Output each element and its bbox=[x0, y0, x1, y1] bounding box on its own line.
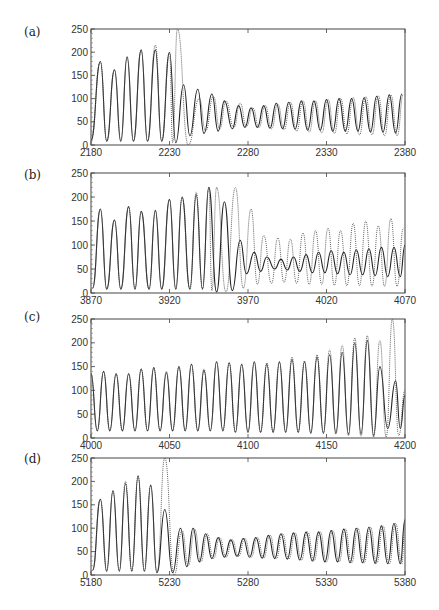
y-tick-label: 100 bbox=[71, 240, 88, 251]
dotted-series-line bbox=[93, 458, 405, 575]
y-tick-label: 200 bbox=[71, 337, 88, 348]
panel-d: 05010015020025051805230528053305380 bbox=[71, 453, 416, 589]
y-tick-label: 100 bbox=[71, 93, 88, 104]
y-tick-label: 150 bbox=[71, 361, 88, 372]
solid-series-line bbox=[93, 476, 405, 573]
x-tick-label: 3970 bbox=[237, 295, 260, 306]
panel-a: 05010015020025021802230228023302380 bbox=[71, 24, 416, 159]
panel-c: 05010015020025040004050410041504200 bbox=[71, 314, 416, 452]
x-tick-label: 4150 bbox=[315, 440, 338, 451]
x-tick-label: 2280 bbox=[237, 147, 260, 158]
y-tick-label: 200 bbox=[71, 192, 88, 203]
solid-series-line bbox=[93, 187, 405, 292]
y-tick-label: 50 bbox=[77, 264, 89, 275]
y-tick-label: 250 bbox=[71, 168, 88, 179]
x-tick-label: 3870 bbox=[80, 295, 103, 306]
y-tick-label: 150 bbox=[71, 216, 88, 227]
y-tick-label: 250 bbox=[71, 453, 88, 464]
time-series-chart: 0501001502002502180223022802330238005010… bbox=[0, 0, 439, 610]
x-tick-label: 3920 bbox=[158, 295, 181, 306]
x-tick-label: 2230 bbox=[158, 147, 181, 158]
axes-frame bbox=[91, 173, 405, 293]
y-tick-label: 50 bbox=[77, 116, 89, 127]
x-tick-label: 2180 bbox=[80, 147, 103, 158]
x-tick-label: 4050 bbox=[158, 440, 181, 451]
x-tick-label: 4200 bbox=[394, 440, 417, 451]
x-tick-label: 2380 bbox=[394, 147, 417, 158]
x-tick-label: 4100 bbox=[237, 440, 260, 451]
y-tick-label: 150 bbox=[71, 70, 88, 81]
y-tick-label: 100 bbox=[71, 385, 88, 396]
dotted-series-line bbox=[93, 187, 404, 292]
x-tick-label: 5380 bbox=[394, 577, 417, 588]
x-tick-label: 4070 bbox=[394, 295, 417, 306]
x-tick-label: 5230 bbox=[158, 577, 181, 588]
x-tick-label: 5280 bbox=[237, 577, 260, 588]
x-tick-label: 4000 bbox=[80, 440, 103, 451]
y-tick-label: 50 bbox=[77, 546, 89, 557]
x-tick-label: 2330 bbox=[315, 147, 338, 158]
y-tick-label: 150 bbox=[71, 499, 88, 510]
x-tick-label: 5180 bbox=[80, 577, 103, 588]
y-tick-label: 200 bbox=[71, 47, 88, 58]
y-tick-label: 100 bbox=[71, 523, 88, 534]
y-tick-label: 200 bbox=[71, 476, 88, 487]
x-tick-label: 4020 bbox=[315, 295, 338, 306]
panel-b: 05010015020025038703920397040204070 bbox=[71, 168, 416, 307]
x-tick-label: 5330 bbox=[315, 577, 338, 588]
solid-series-line bbox=[91, 340, 405, 435]
y-tick-label: 250 bbox=[71, 24, 88, 35]
y-tick-label: 50 bbox=[77, 409, 89, 420]
y-tick-label: 250 bbox=[71, 314, 88, 325]
